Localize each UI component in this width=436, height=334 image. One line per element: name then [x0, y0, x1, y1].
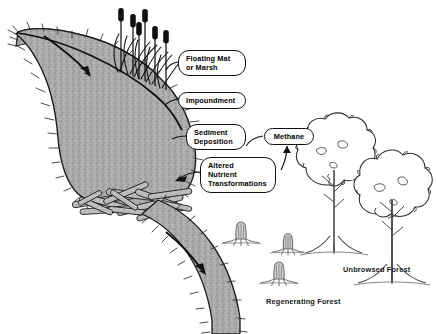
impoundment-pond — [16, 29, 196, 207]
stump — [270, 234, 306, 256]
label-unbrowsed-forest: Unbrowsed Forest — [343, 265, 410, 274]
stump — [221, 222, 261, 246]
callout-impoundment: Impoundment — [178, 92, 246, 109]
callout-methane: Methane — [264, 128, 314, 145]
stump — [259, 262, 299, 286]
label-regenerating-forest: Regenerating Forest — [266, 297, 341, 306]
beaver-impoundment-diagram: Floating Mat or Marsh Impoundment Sedime… — [0, 0, 436, 334]
stump-group — [221, 222, 306, 286]
callout-altered-nutrient-transformations: Altered Nutrient Transformations — [200, 157, 276, 193]
outlet-stream — [142, 200, 240, 334]
callout-floating-mat: Floating Mat or Marsh — [178, 50, 246, 76]
callout-sediment-deposition: Sediment Deposition — [186, 124, 246, 150]
